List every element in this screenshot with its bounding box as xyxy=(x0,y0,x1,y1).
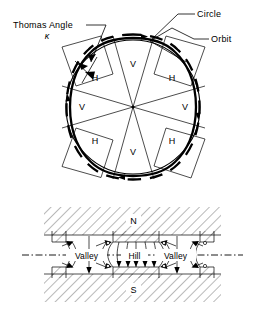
hill-shoe-south xyxy=(113,267,159,278)
footpoint-5 xyxy=(203,241,206,244)
hill-field-arrow-4 xyxy=(143,261,148,267)
valley-left-field-arrow xyxy=(86,267,91,274)
radius-6 xyxy=(113,107,133,179)
sector-label-lower-left: H xyxy=(92,136,99,146)
orbit-label: Orbit xyxy=(211,34,232,44)
orbit-center xyxy=(132,106,135,109)
south-pole-label: S xyxy=(130,285,136,295)
bottom-panel: Valley Hill Valley N S xyxy=(22,207,243,302)
sector-label-bottom: V xyxy=(130,147,136,157)
hill-label: Hill xyxy=(128,251,140,261)
hill-shoe-left-north xyxy=(52,231,66,242)
radius-1 xyxy=(113,36,133,107)
hill-field-arrow-5 xyxy=(152,261,157,267)
sector-label-upper-left: H xyxy=(92,73,99,83)
thomas-angle-symbol: κ xyxy=(45,31,50,41)
sector-label-lower-right: H xyxy=(169,136,176,146)
radius-5 xyxy=(133,107,154,179)
footpoint-4 xyxy=(162,264,165,267)
hill-shoe-left-south xyxy=(52,267,66,278)
valley-left-label: Valley xyxy=(75,251,99,261)
hill-field-arrow-1 xyxy=(117,261,122,267)
figure-container: V H V H V H V H Thomas Angle κ Circle Or… xyxy=(0,0,266,309)
hill-shoe-right-north xyxy=(200,231,214,242)
footpoint-1 xyxy=(106,241,109,244)
footpoint-3 xyxy=(162,241,165,244)
valley-right-label: Valley xyxy=(164,251,188,261)
figure-svg: V H V H V H V H Thomas Angle κ Circle Or… xyxy=(0,0,266,309)
footpoint-6 xyxy=(203,264,206,267)
thomas-angle-label: Thomas Angle xyxy=(13,20,73,30)
sector-label-upper-right: H xyxy=(169,73,176,83)
sector-label-left: V xyxy=(79,102,85,112)
hill-field-arrow-2 xyxy=(126,261,131,267)
footpoint-2 xyxy=(106,264,109,267)
hill-shoe-right-south xyxy=(200,267,214,278)
circle-label: Circle xyxy=(197,9,221,19)
sector-label-right: V xyxy=(182,102,188,112)
sector-label-top: V xyxy=(130,59,136,69)
hill-shoe-north xyxy=(113,231,159,242)
top-panel: V H V H V H V H Thomas Angle κ Circle Or… xyxy=(13,9,232,180)
fringe-line-c xyxy=(108,242,113,267)
radius-2 xyxy=(133,36,154,107)
hill-field-arrow-3 xyxy=(134,261,139,267)
valley-right-field-arrow xyxy=(174,267,179,274)
north-pole-label: N xyxy=(130,216,137,226)
